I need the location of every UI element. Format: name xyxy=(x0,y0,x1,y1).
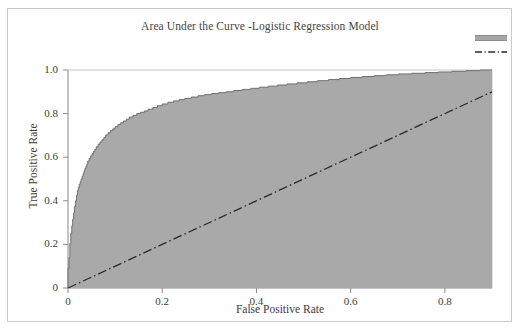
y-tick-label: 1.0 xyxy=(26,63,58,75)
y-axis-ticks xyxy=(63,70,68,288)
y-axis-title: True Positive Rate xyxy=(27,86,39,246)
plot-area xyxy=(0,0,520,336)
x-axis-title: False Positive Rate xyxy=(68,303,492,315)
chart-figure: Area Under the Curve -Logistic Regressio… xyxy=(0,0,520,336)
y-tick-label: 0 xyxy=(26,281,58,293)
x-axis-ticks xyxy=(68,288,445,293)
roc-filled-area xyxy=(68,70,492,288)
